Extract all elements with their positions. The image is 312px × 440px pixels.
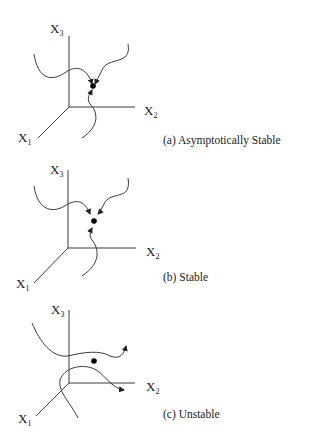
caption-c: (c) Unstable xyxy=(163,408,220,420)
equilibrium-point xyxy=(91,218,97,224)
trajectory xyxy=(32,323,126,357)
x1-label: X1 xyxy=(16,277,29,293)
x1-axis xyxy=(38,107,69,138)
caption-b: (b) Stable xyxy=(163,271,208,283)
trajectory xyxy=(34,54,92,84)
x1-label: X1 xyxy=(18,131,31,147)
x2-label: X2 xyxy=(146,380,159,396)
panel-a xyxy=(34,36,135,138)
x3-label: X3 xyxy=(50,22,63,38)
equilibrium-point xyxy=(91,358,97,364)
trajectory xyxy=(82,90,96,138)
x2-label: X2 xyxy=(146,245,159,261)
trajectory xyxy=(95,44,128,84)
x3-label: X3 xyxy=(51,303,64,319)
trajectory xyxy=(98,178,128,214)
equilibrium-point xyxy=(90,83,96,89)
caption-a: (a) Asymptotically Stable xyxy=(163,134,281,146)
panel-b xyxy=(34,170,136,283)
x3-label: X3 xyxy=(50,163,63,179)
trajectory xyxy=(82,228,97,276)
x1-axis xyxy=(36,383,69,416)
stability-diagram xyxy=(0,0,312,440)
x1-label: X1 xyxy=(18,412,31,428)
trajectory xyxy=(34,186,90,214)
x1-axis xyxy=(34,248,68,283)
x2-label: X2 xyxy=(144,104,157,120)
panel-c xyxy=(32,310,135,418)
